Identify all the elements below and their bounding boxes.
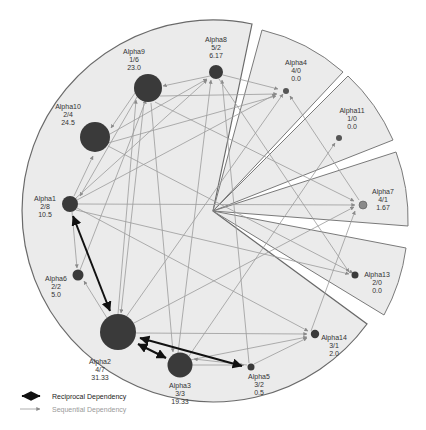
label-alpha10-name: Alpha10	[55, 103, 81, 111]
node-alpha10[interactable]	[80, 122, 110, 152]
node-alpha3[interactable]	[168, 353, 193, 378]
label-alpha13-name: Alpha13	[364, 271, 390, 279]
label-alpha1-ratio: 2/8	[40, 203, 50, 210]
label-alpha5-ratio: 3/2	[254, 381, 264, 388]
label-alpha1-name: Alpha1	[34, 195, 56, 203]
label-alpha3-value: 19.33	[171, 398, 189, 405]
node-alpha14[interactable]	[311, 330, 319, 338]
label-alpha11-ratio: 1/0	[347, 115, 357, 122]
label-alpha11-value: 0.0	[347, 123, 357, 130]
legend-reciprocal-label: Reciprocal Dependency	[52, 393, 127, 401]
label-alpha7-name: Alpha7	[372, 188, 394, 196]
label-alpha3-ratio: 3/3	[175, 390, 185, 397]
label-alpha8-ratio: 5/2	[211, 44, 221, 51]
label-alpha13-ratio: 2/0	[372, 279, 382, 286]
label-alpha5-value: 0.5	[254, 389, 264, 396]
node-alpha1[interactable]	[62, 196, 78, 212]
label-alpha14-ratio: 3/1	[329, 342, 339, 349]
node-alpha6[interactable]	[73, 270, 84, 281]
label-alpha8-value: 6.17	[209, 52, 223, 59]
label-alpha7-ratio: 4/1	[378, 196, 388, 203]
label-alpha7-value: 1.67	[376, 204, 390, 211]
label-alpha11-name: Alpha11	[339, 107, 364, 115]
label-alpha4-value: 0.0	[291, 75, 301, 82]
dependency-diagram: Alpha8 5/2 6.17 Alpha9 1/6 23.0 Alpha10 …	[0, 0, 426, 430]
legend-sequential-label: Sequential Dependency	[52, 406, 127, 414]
label-alpha14-name: Alpha14	[321, 334, 347, 342]
node-alpha2[interactable]	[100, 314, 136, 350]
node-alpha13[interactable]	[352, 272, 359, 279]
label-alpha9-value: 23.0	[127, 64, 141, 71]
legend: Reciprocal Dependency Sequential Depende…	[20, 393, 127, 414]
label-alpha3-name: Alpha3	[169, 382, 191, 390]
label-alpha10-ratio: 2/4	[63, 111, 73, 118]
node-alpha7[interactable]	[359, 201, 367, 209]
label-alpha4-name: Alpha4	[285, 59, 307, 67]
label-alpha5-name: Alpha5	[248, 373, 270, 381]
label-alpha6-ratio: 2/2	[51, 283, 61, 290]
node-alpha11[interactable]	[336, 135, 342, 141]
label-alpha9-name: Alpha9	[123, 48, 145, 56]
label-alpha6-name: Alpha6	[45, 275, 67, 283]
label-alpha4-ratio: 4/0	[291, 67, 301, 74]
label-alpha13-value: 0.0	[372, 287, 382, 294]
label-alpha9-ratio: 1/6	[129, 56, 139, 63]
node-alpha4[interactable]	[283, 88, 289, 94]
node-alpha5[interactable]	[248, 364, 255, 371]
label-alpha6-value: 5.0	[51, 291, 61, 298]
node-alpha8[interactable]	[209, 65, 223, 79]
node-alpha9[interactable]	[134, 74, 162, 102]
label-alpha1-value: 10.5	[38, 211, 52, 218]
label-alpha14-value: 2.0	[329, 350, 339, 357]
label-alpha8-name: Alpha8	[205, 36, 227, 44]
label-alpha2-value: 31.33	[91, 374, 109, 381]
label-alpha2-ratio: 4/7	[95, 366, 105, 373]
label-alpha10-value: 24.5	[61, 119, 75, 126]
label-alpha2-name: Alpha2	[89, 358, 111, 366]
